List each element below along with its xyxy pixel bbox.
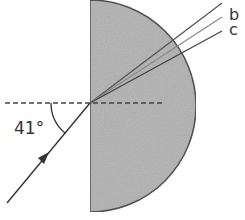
refraction-diagram: 41° b c: [0, 0, 245, 220]
angle-arc: [51, 103, 65, 133]
semicircular-block: [90, 0, 196, 212]
arrow-icon: [38, 152, 49, 164]
ray-label-c: c: [229, 20, 238, 39]
angle-label: 41°: [14, 118, 44, 138]
